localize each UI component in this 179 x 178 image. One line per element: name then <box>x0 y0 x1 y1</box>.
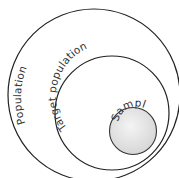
sampling-diagram: Population Target population Sample <box>0 0 179 178</box>
